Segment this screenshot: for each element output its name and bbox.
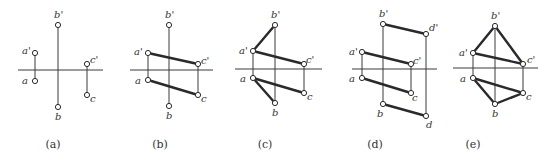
point-marker [359,75,364,80]
point-label: b [377,108,383,119]
point-label: a [349,73,355,84]
point-marker [55,104,60,109]
point-marker [301,90,306,95]
panel-c: a'ab'bc'c(c) [235,9,322,151]
panel-b: a'ab'bc'c(b) [130,9,213,151]
object-edge [383,24,426,34]
point-marker [520,90,525,95]
panel-caption: (e) [465,138,480,151]
point-marker [492,23,497,28]
point-label: a' [349,46,358,57]
point-label: a' [239,45,248,56]
point-marker [32,78,37,83]
panel-caption: (a) [45,138,60,151]
point-marker [166,22,171,27]
point-label: a' [22,45,31,56]
point-label: a' [134,46,143,57]
point-marker [272,22,277,27]
point-marker [380,21,385,26]
point-marker [145,50,150,55]
point-marker [423,113,428,118]
point-label: b' [165,9,174,20]
point-label: a [460,73,466,84]
point-marker [492,101,497,106]
point-marker [195,92,200,97]
point-marker [359,49,364,54]
object-edge [148,80,198,95]
point-label: b' [271,9,280,20]
point-label: b' [491,10,500,21]
object-edge [253,25,275,51]
point-label: c [412,92,418,103]
point-label: a' [459,47,468,58]
point-marker [250,75,255,80]
object-edge [473,26,495,53]
panel-caption: (b) [152,138,168,151]
point-marker [272,100,277,105]
point-label: a [240,73,246,84]
panel-e: a'ab'bc'c(e) [453,10,538,151]
point-label: c' [413,55,421,66]
point-marker [166,103,171,108]
point-label: b' [379,8,388,19]
point-marker [84,92,89,97]
object-edge [362,78,411,93]
panel-d: a'ab'bc'cd'd(d) [349,8,438,151]
point-label: b [272,107,278,118]
panel-caption: (d) [367,138,383,151]
point-label: c' [90,54,98,65]
object-edge [253,51,304,64]
point-marker [470,50,475,55]
point-label: c [201,93,207,104]
point-marker [84,61,89,66]
panel-a: a'ab'bc'c(a) [18,9,103,151]
point-label: d' [429,22,438,33]
point-label: d [426,119,432,130]
point-marker [520,61,525,66]
point-marker [145,77,150,82]
point-label: c' [201,55,209,66]
object-edge [148,53,198,64]
object-edge [362,52,411,64]
point-label: c' [306,54,314,65]
point-label: b [55,111,61,122]
point-marker [250,48,255,53]
point-label: a [135,75,141,86]
point-marker [32,50,37,55]
point-label: b' [54,9,63,20]
object-edge [495,93,523,104]
point-marker [470,75,475,80]
panel-caption: (c) [258,138,273,151]
point-label: c [90,93,96,104]
point-marker [423,31,428,36]
point-label: c [307,91,313,102]
point-marker [55,22,60,27]
point-marker [380,101,385,106]
object-edge [383,104,426,116]
point-label: b [492,108,498,119]
point-label: c' [527,54,535,65]
orthographic-projection-figure: a'ab'bc'c(a)a'ab'bc'c(b)a'ab'bc'c(c)a'ab… [0,0,555,165]
point-label: a [22,75,28,86]
point-label: b [166,110,172,121]
point-label: c [526,91,532,102]
point-marker [195,61,200,66]
